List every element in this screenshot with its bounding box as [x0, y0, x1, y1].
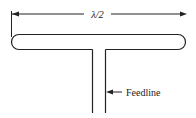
- dimension-label: λ/2: [90, 9, 104, 20]
- dipole-diagram: λ/2 Feedline: [0, 0, 196, 118]
- arrowhead-left-icon: [12, 12, 19, 17]
- arrowhead-right-icon: [180, 12, 187, 17]
- feedline-label: Feedline: [126, 87, 161, 98]
- folded-dipole-element: [12, 35, 186, 50]
- feedline-arrowhead-icon: [106, 90, 113, 95]
